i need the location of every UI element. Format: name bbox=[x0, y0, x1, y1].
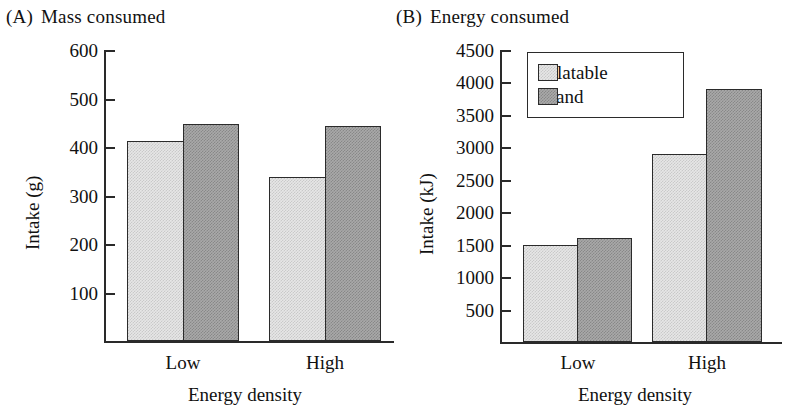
panel-b-tick-1000 bbox=[502, 277, 511, 279]
panel-a-x-axis-title: Energy density bbox=[135, 384, 355, 406]
panel-a-ticklabel-200: 200 bbox=[46, 234, 98, 256]
panel-b-y-axis-title: Intake (kJ) bbox=[416, 173, 438, 255]
panel-a-ticklabel-400: 400 bbox=[46, 137, 98, 159]
panel-b-tick-1500 bbox=[502, 245, 511, 247]
panel-a-category-low: Low bbox=[133, 352, 233, 374]
panel-b-ticklabel-4500: 4500 bbox=[422, 40, 494, 62]
panel-b-category-high: High bbox=[657, 352, 757, 374]
panel-b-tick-3000 bbox=[502, 147, 511, 149]
legend: Palatable Bland bbox=[527, 52, 684, 118]
panel-a-bar-high-palatable bbox=[269, 177, 326, 341]
panel-b-tick-4000 bbox=[502, 82, 511, 84]
panel-b-ticklabel-3500: 3500 bbox=[422, 105, 494, 127]
panel-a-y-axis-title: Intake (g) bbox=[22, 176, 44, 250]
legend-item-palatable: Palatable bbox=[538, 60, 673, 84]
panel-a-category-high: High bbox=[275, 352, 375, 374]
panel-b-title: (B)Energy consumed bbox=[396, 6, 569, 28]
panel-a-tick-400 bbox=[106, 147, 115, 149]
panel-b-bar-low-bland bbox=[577, 238, 632, 342]
panel-b-ticklabel-1000: 1000 bbox=[422, 267, 494, 289]
legend-item-bland: Bland bbox=[538, 84, 673, 108]
panel-b-tick-4500 bbox=[502, 50, 511, 52]
panel-a-ticklabel-100: 100 bbox=[46, 283, 98, 305]
panel-b-x-axis-title: Energy density bbox=[525, 384, 745, 406]
panel-b-tick-3500 bbox=[502, 115, 511, 117]
panel-a-tick-500 bbox=[106, 99, 115, 101]
panel-b-bar-high-palatable bbox=[652, 154, 707, 342]
panel-a-tick-600 bbox=[106, 50, 115, 52]
panel-b-category-low: Low bbox=[528, 352, 628, 374]
legend-swatch-palatable-icon bbox=[538, 64, 558, 81]
panel-a-tick-200 bbox=[106, 244, 115, 246]
panel-b-x-axis bbox=[500, 342, 782, 344]
panel-a-tick-100 bbox=[106, 293, 115, 295]
legend-swatch-bland-icon bbox=[538, 88, 558, 105]
panel-a-bar-low-bland bbox=[183, 124, 239, 341]
panel-a-title-text: Mass consumed bbox=[41, 6, 166, 27]
panel-a-tag: (A) bbox=[6, 6, 33, 27]
panel-b-tick-500 bbox=[502, 310, 511, 312]
panel-b-ticklabel-4000: 4000 bbox=[422, 72, 494, 94]
panel-b-bar-high-bland bbox=[706, 89, 762, 342]
panel-b-ticklabel-500: 500 bbox=[422, 300, 494, 322]
panel-b-tick-2000 bbox=[502, 212, 511, 214]
panel-a-mass-consumed: (A)Mass consumed 600 500 400 300 200 100… bbox=[0, 0, 400, 419]
panel-a-x-axis bbox=[104, 341, 394, 343]
panel-a-ticklabel-300: 300 bbox=[46, 186, 98, 208]
panel-b-y-axis bbox=[500, 50, 502, 344]
panel-b-tick-2500 bbox=[502, 180, 511, 182]
panel-a-tick-300 bbox=[106, 196, 115, 198]
panel-b-tag: (B) bbox=[396, 6, 422, 27]
panel-b-bar-low-palatable bbox=[523, 245, 578, 342]
panel-a-ticklabel-600: 600 bbox=[46, 40, 98, 62]
panel-b-energy-consumed: (B)Energy consumed 4500 4000 3500 3000 2… bbox=[390, 0, 787, 419]
panel-b-ticklabel-3000: 3000 bbox=[422, 137, 494, 159]
panel-a-bar-low-palatable bbox=[127, 141, 184, 341]
panel-b-title-text: Energy consumed bbox=[430, 6, 569, 27]
panel-a-title: (A)Mass consumed bbox=[6, 6, 166, 28]
panel-a-ticklabel-500: 500 bbox=[46, 89, 98, 111]
panel-a-bar-high-bland bbox=[325, 126, 381, 341]
figure-two-panel-bar-charts: (A)Mass consumed 600 500 400 300 200 100… bbox=[0, 0, 787, 419]
